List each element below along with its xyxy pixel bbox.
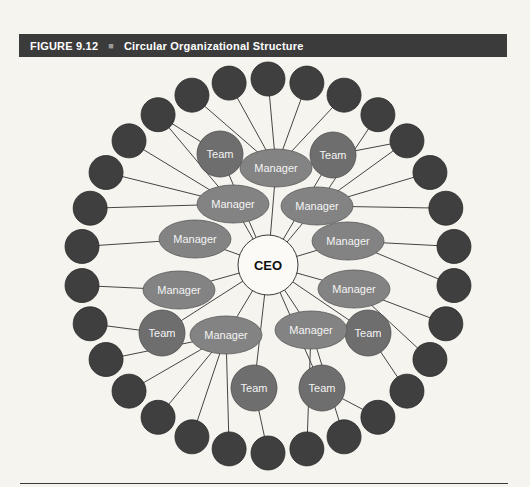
employee-node [437,229,471,263]
employee-node [437,269,471,303]
org-chart-container: TeamTeamTeamTeamTeamTeamManagerManagerMa… [0,0,530,487]
team-label: Team [309,382,336,394]
team-label: Team [149,327,176,339]
employee-node [429,191,463,225]
manager-label: Manager [332,283,376,295]
employee-node [89,156,123,190]
employee-node [175,420,209,454]
team-label: Team [207,148,234,160]
employee-node [413,156,447,190]
employee-node [290,66,324,100]
manager-label: Manager [204,329,248,341]
employee-node [89,343,123,377]
employee-node [361,400,395,434]
employee-node [212,66,246,100]
employee-node [112,374,146,408]
employee-node [141,400,175,434]
employee-node [390,374,424,408]
ceo-label: CEO [254,258,282,273]
employee-node [65,269,99,303]
employee-node [390,124,424,158]
manager-label: Manager [211,198,255,210]
org-chart: TeamTeamTeamTeamTeamTeamManagerManagerMa… [0,0,530,487]
employee-node [175,78,209,112]
team-label: Team [355,327,382,339]
employee-node [141,98,175,132]
employee-node [112,124,146,158]
employee-node [73,307,107,341]
employee-node [251,62,285,96]
employee-node [290,432,324,466]
team-label: Team [320,149,347,161]
manager-label: Manager [289,324,333,336]
manager-label: Manager [157,284,201,296]
team-label: Team [241,382,268,394]
bottom-rule-divider [20,483,508,484]
manager-label: Manager [326,235,370,247]
employee-node [73,191,107,225]
employee-node [429,307,463,341]
employee-node [327,78,361,112]
manager-label: Manager [295,200,339,212]
employee-node [327,420,361,454]
employee-node [65,229,99,263]
manager-label: Manager [173,233,217,245]
employee-node [212,432,246,466]
employee-node [413,343,447,377]
employee-node [361,98,395,132]
manager-label: Manager [254,162,298,174]
employee-node [251,436,285,470]
textbook-figure-page: FIGURE 9.12 ■ Circular Organizational St… [0,0,530,487]
